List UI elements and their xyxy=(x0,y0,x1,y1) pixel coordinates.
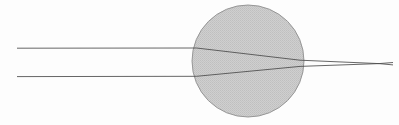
figure-canvas xyxy=(0,0,399,125)
sphere-shape xyxy=(192,5,304,117)
refraction-diagram xyxy=(0,0,399,125)
